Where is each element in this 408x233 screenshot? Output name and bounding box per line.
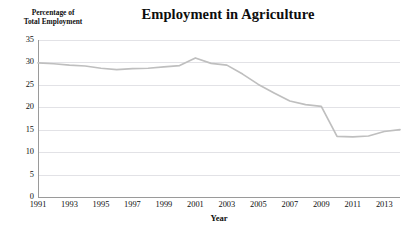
x-axis-tick: 1993: [52, 200, 86, 209]
y-axis-tick: 15: [12, 125, 34, 134]
x-axis-tick-labels: 1991199319951997199920012003200520072009…: [38, 200, 400, 214]
gridline: [38, 85, 400, 86]
x-axis-tick: 2011: [336, 200, 370, 209]
gridline: [38, 107, 400, 108]
x-axis-tick: 2007: [273, 200, 307, 209]
x-axis-title: Year: [38, 213, 400, 223]
gridline: [38, 40, 400, 41]
gridline: [38, 130, 400, 131]
y-axis-label: Percentage of Total Employment: [14, 8, 92, 26]
x-axis-tick: 2001: [178, 200, 212, 209]
chart-title: Employment in Agriculture: [118, 6, 338, 23]
x-axis-tick: 2003: [210, 200, 244, 209]
x-axis-tick: 2013: [367, 200, 401, 209]
gridline: [38, 62, 400, 63]
chart-figure: Employment in Agriculture Percentage of …: [0, 0, 408, 233]
x-axis-tick: 2009: [304, 200, 338, 209]
x-axis-tick: 1995: [84, 200, 118, 209]
x-axis-tick: 2005: [241, 200, 275, 209]
y-axis-line: [38, 40, 39, 198]
gridline: [38, 152, 400, 153]
x-axis-tick: 1997: [115, 200, 149, 209]
y-axis-tick: 5: [12, 170, 34, 179]
x-axis-tick: 1999: [147, 200, 181, 209]
y-axis-tick: 25: [12, 80, 34, 89]
y-axis-label-line-1: Percentage of: [14, 8, 92, 17]
gridline: [38, 175, 400, 176]
y-axis-tick: 30: [12, 57, 34, 66]
x-axis-line: [38, 197, 400, 198]
y-axis-tick: 20: [12, 102, 34, 111]
y-axis-tick: 10: [12, 147, 34, 156]
plot-area: [38, 40, 400, 197]
y-axis-label-line-2: Total Employment: [14, 17, 92, 26]
x-axis-tick: 1991: [21, 200, 55, 209]
y-axis-tick-labels: 35302520151050: [8, 40, 34, 198]
y-axis-tick: 35: [12, 35, 34, 44]
